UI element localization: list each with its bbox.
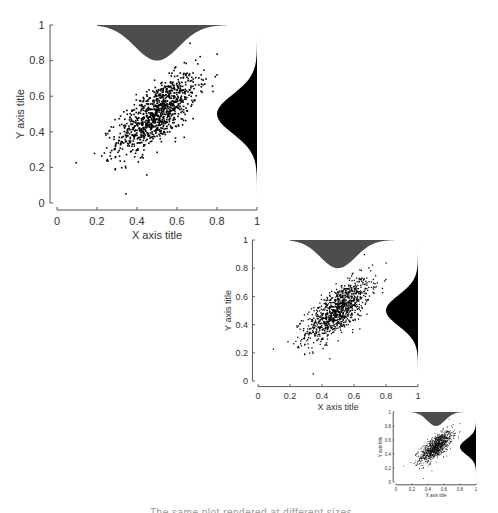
y-tick-label: 1: [388, 410, 391, 415]
scatter-points: [403, 419, 460, 479]
y-tick-label: 0: [388, 480, 391, 485]
x-tick-label: 0.8: [457, 487, 464, 492]
x-axis-title: X axis title: [426, 493, 447, 498]
y-tick-label: 0.6: [385, 438, 392, 443]
x-tick-label: 0: [395, 487, 398, 492]
y-tick-label: 0.2: [385, 466, 392, 471]
y-tick-label: 0.8: [385, 424, 392, 429]
y-tick-label: 0.4: [385, 452, 392, 457]
chart-canvas: 00.20.40.60.8100.20.40.60.81X axis title…: [0, 0, 498, 513]
x-tick-label: 0.4: [425, 487, 432, 492]
x-tick-label: 1: [475, 487, 478, 492]
y-axis-title: Y axis title: [378, 436, 383, 457]
x-tick-label: 0.6: [441, 487, 448, 492]
scatter-plot-small: 00.20.40.60.8100.20.40.60.81X axis title…: [0, 0, 498, 513]
x-tick-label: 0.2: [409, 487, 416, 492]
figure-caption: The same plot rendered at different size…: [150, 506, 360, 513]
right-marginal-density: [460, 412, 476, 482]
top-marginal-density: [412, 412, 464, 426]
